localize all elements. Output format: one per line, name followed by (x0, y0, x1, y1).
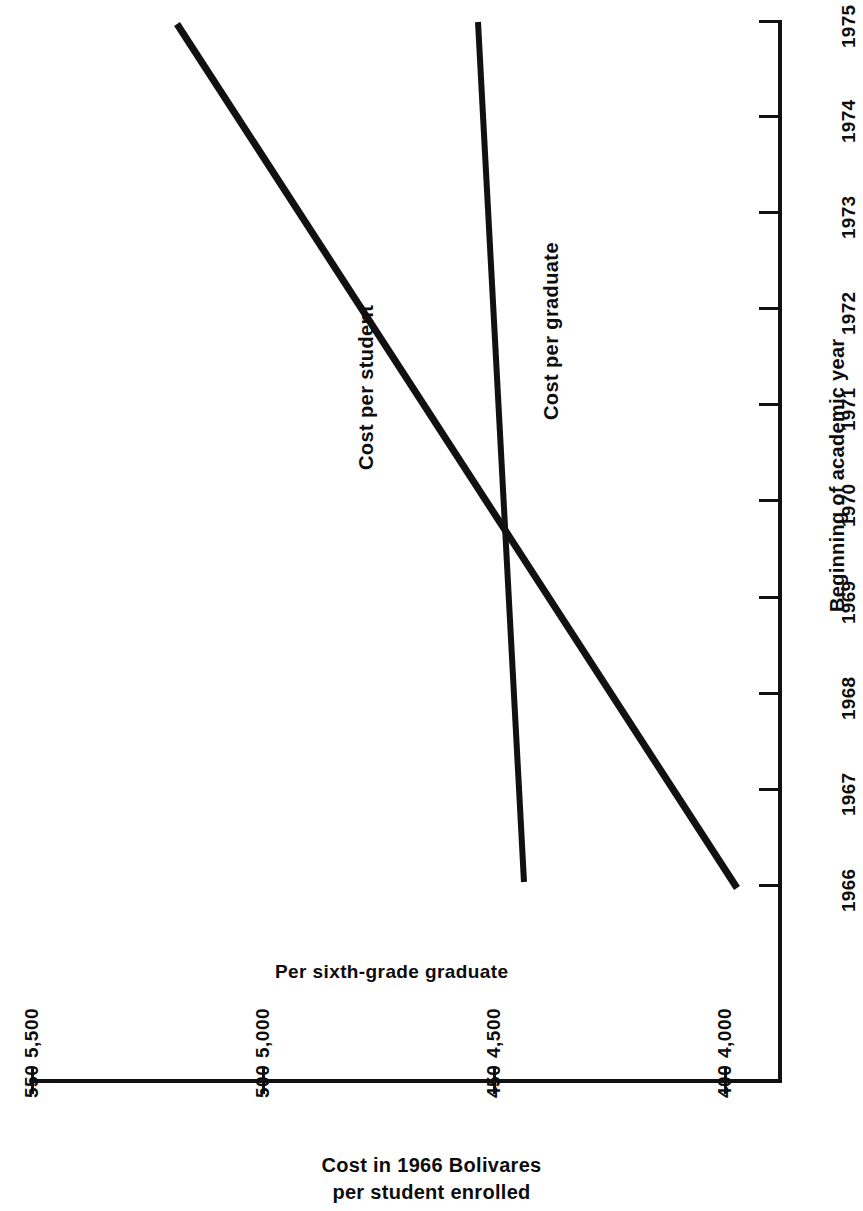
series-label-cost-per-student: Cost per student (355, 305, 378, 470)
chart-figure: 550 500 450 400 5,500 5,000 4,500 4,000 … (0, 0, 863, 1211)
series-line-cost-per-graduate (478, 22, 524, 882)
series-label-cost-per-graduate: Cost per graduate (540, 242, 563, 420)
series-line-cost-per-student (177, 24, 737, 888)
plot-area (0, 0, 863, 1211)
